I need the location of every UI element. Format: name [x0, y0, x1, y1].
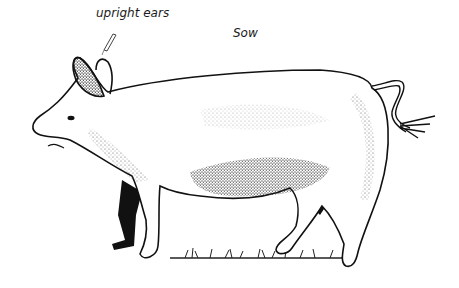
pig-illustration	[0, 0, 459, 288]
grass	[170, 248, 350, 258]
sow-diagram: upright ears Sow	[0, 0, 459, 288]
mouth	[48, 144, 64, 148]
eye	[68, 116, 75, 120]
pointer-arrow-icon	[102, 34, 116, 55]
